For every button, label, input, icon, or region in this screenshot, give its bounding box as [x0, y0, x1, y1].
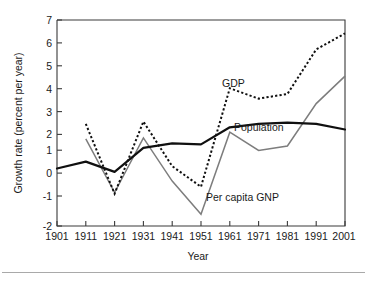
figure-container: 7 6 5 4 3 2 1 0 -1 -2 1901 191: [0, 0, 367, 281]
y-axis-ticks: [57, 20, 62, 226]
y-axis-tick-labels: 7 6 5 4 3 2 1 0 -1 -2: [43, 14, 53, 232]
footer-divider: [2, 272, 365, 273]
x-tick-label: 1971: [247, 230, 271, 242]
y-tick-label: 4: [46, 83, 52, 95]
y-tick-label: -1: [43, 190, 52, 202]
growth-rate-line-chart: 7 6 5 4 3 2 1 0 -1 -2 1901 191: [0, 0, 367, 281]
x-tick-label: 1981: [276, 230, 300, 242]
y-tick-label: 6: [46, 37, 52, 49]
x-tick-label: 1911: [75, 230, 98, 242]
series-line-gdp: [86, 33, 345, 193]
x-tick-label: 2001: [332, 230, 356, 242]
y-tick-label: 2: [46, 128, 52, 140]
y-tick-label: 5: [46, 60, 52, 72]
x-axis-tick-labels: 1901 1911 1921 1931 1941 1951 1961 1971 …: [45, 230, 356, 242]
x-tick-label: 1921: [103, 230, 127, 242]
series-annotation-gdp: GDP: [222, 77, 245, 89]
x-tick-label: 1901: [45, 230, 69, 242]
y-axis-title: Growth rate (percent per year): [12, 52, 24, 193]
x-tick-label: 1961: [218, 230, 242, 242]
y-tick-label: 7: [46, 14, 52, 26]
x-tick-label: 1991: [305, 230, 329, 242]
y-tick-label: 3: [46, 106, 52, 118]
y-tick-label: 1: [46, 144, 52, 156]
x-axis-title: Year: [187, 250, 209, 262]
x-tick-label: 1941: [161, 230, 185, 242]
series-annotation-per-capita-gnp: Per capita GNP: [206, 191, 279, 203]
x-tick-label: 1951: [189, 230, 213, 242]
series-annotation-population: Population: [234, 121, 284, 133]
x-axis-ticks: [57, 221, 345, 226]
x-tick-label: 1931: [132, 230, 156, 242]
y-tick-label: 0: [46, 167, 52, 179]
